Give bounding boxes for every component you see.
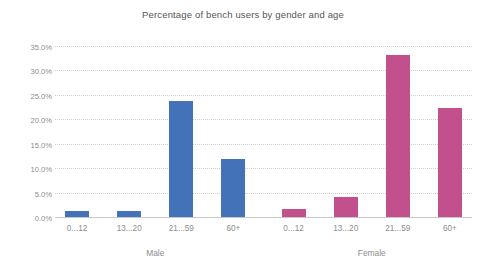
- y-axis-tick-label: 5.0%: [4, 189, 52, 198]
- x-axis-category-label: 60+: [226, 224, 240, 233]
- y-axis-tick-label: 10.0%: [4, 165, 52, 174]
- x-axis-category-label: 60+: [443, 224, 457, 233]
- x-axis-category-label: 21...59: [385, 224, 410, 233]
- y-axis-tick-labels: 0.0%5.0%10.0%15.0%20.0%25.0%30.0%35.0%: [0, 47, 52, 218]
- x-axis-category-label: 0...12: [283, 224, 304, 233]
- chart-title: Percentage of bench users by gender and …: [0, 9, 486, 20]
- bars-layer: [55, 47, 472, 218]
- x-axis-group-label: Female: [358, 248, 386, 258]
- bar-chart: Percentage of bench users by gender and …: [0, 0, 486, 274]
- y-axis-tick-label: 20.0%: [4, 116, 52, 125]
- x-axis-line: [55, 217, 472, 218]
- x-axis-group-labels: MaleFemale: [55, 248, 472, 264]
- bar: [334, 197, 358, 218]
- y-axis-tick-label: 15.0%: [4, 140, 52, 149]
- bar: [438, 108, 462, 218]
- x-axis-category-labels: 0...1213...2021...5960+0...1213...2021..…: [55, 224, 472, 238]
- y-axis-tick-label: 30.0%: [4, 67, 52, 76]
- bar: [169, 101, 193, 218]
- x-axis-category-label: 21...59: [169, 224, 194, 233]
- x-axis-group-label: Male: [146, 248, 164, 258]
- y-axis-tick-label: 35.0%: [4, 43, 52, 52]
- x-axis-category-label: 0...12: [67, 224, 88, 233]
- x-axis-category-label: 13...20: [117, 224, 142, 233]
- plot-area: [55, 47, 472, 218]
- bar: [221, 159, 245, 218]
- x-axis-category-label: 13...20: [333, 224, 358, 233]
- bar: [386, 55, 410, 218]
- y-axis-tick-label: 25.0%: [4, 91, 52, 100]
- y-axis-tick-label: 0.0%: [4, 214, 52, 223]
